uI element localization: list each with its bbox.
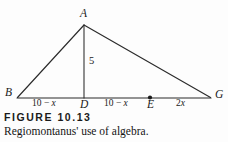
segment-label-de-variable: x: [124, 98, 128, 108]
segment-label-de: 10 − x: [104, 99, 128, 109]
edge-side-ba: [18, 25, 85, 98]
vertex-label-e: E: [147, 99, 154, 111]
segment-label-bd-prefix: 10 −: [32, 98, 52, 108]
vertex-label-d: D: [80, 99, 88, 111]
segment-label-eg-variable: x: [181, 98, 185, 108]
segment-label-de-prefix: 10 −: [104, 98, 124, 108]
triangle-diagram: A B G D E 5 10 − x 10 − x 2x: [0, 0, 228, 112]
segment-label-bd: 10 − x: [32, 99, 56, 109]
figure-container: A B G D E 5 10 − x 10 − x 2x FIGURE 10.1…: [0, 0, 228, 142]
vertex-label-b: B: [5, 87, 12, 99]
figure-caption-text: Regiomontanus' use of algebra.: [4, 124, 226, 138]
vertex-label-g: G: [215, 89, 223, 101]
altitude-length-label: 5: [89, 56, 94, 67]
triangle-diagram-svg: [0, 0, 228, 112]
figure-caption-block: FIGURE 10.13 Regiomontanus' use of algeb…: [4, 111, 226, 138]
segment-label-eg: 2x: [176, 99, 185, 109]
segment-label-bd-variable: x: [52, 98, 56, 108]
vertex-label-a: A: [80, 8, 87, 20]
edge-side-ag: [84, 25, 211, 98]
figure-number: FIGURE 10.13: [4, 111, 226, 123]
